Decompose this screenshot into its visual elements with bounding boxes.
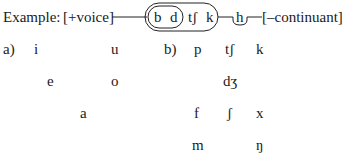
consonant-m: m (192, 138, 204, 153)
consonant-x: x (256, 106, 264, 121)
phoneme-tsh: tʃ (188, 10, 197, 25)
consonant-dzh: dʒ (223, 74, 237, 89)
phoneme-b: b (154, 10, 162, 25)
part-a-label: a) (3, 42, 15, 57)
phoneme-d: d (170, 10, 178, 25)
phoneme-k: k (206, 10, 214, 25)
vowel-u: u (111, 42, 119, 57)
consonant-p: p (194, 42, 202, 57)
vowel-o: o (111, 74, 119, 89)
vowel-a: a (80, 106, 87, 121)
consonant-tsh: tʃ (225, 42, 234, 57)
phoneme-h: h (236, 10, 244, 25)
consonant-sh: ʃ (227, 106, 232, 121)
consonant-f: f (194, 106, 199, 121)
feature-continuant: [–continuant] (262, 10, 343, 25)
vowel-e: e (47, 74, 54, 89)
consonant-k: k (256, 42, 264, 57)
part-b-label: b) (164, 42, 177, 57)
vowel-i: i (34, 42, 38, 57)
consonant-eng: ŋ (256, 138, 263, 153)
